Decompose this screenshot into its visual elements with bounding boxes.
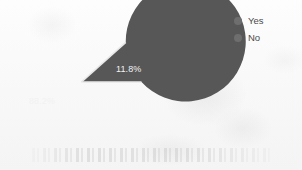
legend-label-no: No bbox=[248, 33, 260, 43]
legend-label-yes: Yes bbox=[248, 16, 264, 26]
slice-label-yes: 11.8% bbox=[116, 64, 141, 74]
chart-page: 11.8% 88.2% Yes No bbox=[0, 0, 302, 170]
legend-item-yes[interactable]: Yes bbox=[234, 13, 292, 28]
slice-label-no: 88.2% bbox=[29, 96, 55, 106]
legend-marker-circle-icon bbox=[234, 17, 242, 25]
chart-legend: Yes No bbox=[234, 13, 292, 47]
pie-chart: 11.8% 88.2% Yes No bbox=[0, 0, 302, 170]
pie-slice-no[interactable] bbox=[82, 0, 246, 101]
legend-item-no[interactable]: No bbox=[234, 30, 292, 45]
legend-marker-circle-icon bbox=[234, 34, 242, 42]
